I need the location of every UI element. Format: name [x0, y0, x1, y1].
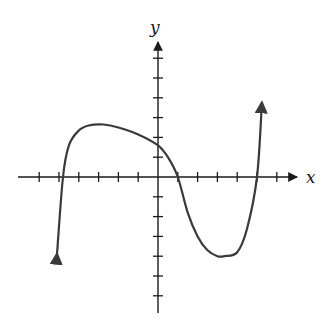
x-axis-label: x	[306, 167, 316, 187]
coordinate-plane: x y	[0, 0, 328, 328]
function-curve	[57, 103, 262, 257]
y-axis-label: y	[149, 17, 160, 37]
